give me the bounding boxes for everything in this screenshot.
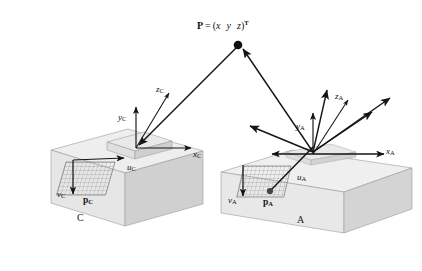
z-axis-a-label: zA: [335, 92, 343, 102]
image-point-dot-a: [267, 188, 273, 194]
figure-canvas: P=(xyz)T zC yC xC uC vC pC C zA yA xA uA…: [0, 0, 422, 271]
u-axis-c-label: uC: [127, 163, 136, 173]
box-label-a: A: [297, 215, 304, 225]
world-point-dot: [234, 41, 243, 50]
ray-p-to-c: [139, 48, 236, 145]
y-axis-a-label: yA: [296, 122, 305, 132]
v-axis-c-label: vC: [57, 190, 65, 200]
u-axis-a-label: uA: [297, 173, 306, 183]
v-axis-a-label: vA: [228, 196, 237, 206]
z-axis-c-label: zC: [156, 85, 164, 95]
x-axis-c-label: xC: [193, 150, 201, 160]
projection-diagram: [0, 0, 422, 271]
world-point-equation: P=(xyz)T: [197, 20, 249, 31]
image-point-a-label: pA: [263, 198, 273, 208]
box-label-c: C: [77, 213, 84, 223]
figure-caption: [0, 263, 422, 271]
y-axis-c-label: yC: [118, 113, 126, 123]
x-axis-a-label: xA: [386, 147, 395, 157]
image-point-c-label: pC: [83, 196, 93, 206]
image-grid-a: [237, 166, 291, 197]
ray-fan-a: [243, 49, 390, 152]
